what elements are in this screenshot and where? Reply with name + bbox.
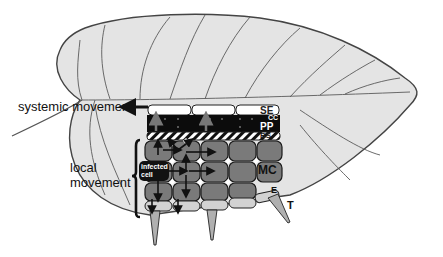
mesophyll-cell-tag: MC: [258, 163, 277, 177]
local-movement-label-line1: local: [70, 160, 131, 175]
infected-cell-label-line1: infected: [141, 163, 167, 171]
bundle-sheath-tag: BS: [260, 131, 271, 140]
local-movement-label: local movement: [70, 160, 131, 190]
companion-cell-tag: CC: [268, 114, 278, 121]
infected-cell-label-line2: cell: [141, 171, 167, 179]
local-movement-label-line2: movement: [70, 175, 131, 190]
trichome-tag: T: [287, 199, 294, 211]
diagram-canvas: [0, 0, 443, 257]
infected-cell-label: infected cell: [139, 161, 169, 181]
systemic-movement-label: systemic movement: [18, 99, 133, 114]
epidermis-tag: E: [271, 185, 277, 195]
